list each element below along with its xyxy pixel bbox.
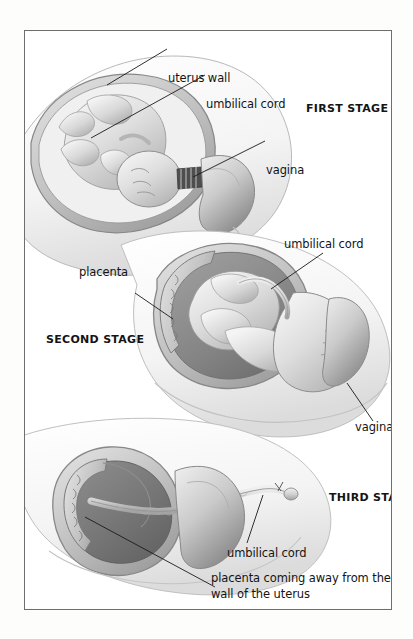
stage-three-illustration	[25, 418, 331, 595]
childbirth-illustration	[25, 31, 392, 610]
figure-frame: uterus wall umbilical cord vagina FIRST …	[24, 30, 392, 610]
stage-two-illustration	[121, 231, 390, 437]
scan-bleed-artifact	[60, 616, 310, 632]
stage-two-title: SECOND STAGE	[46, 332, 144, 348]
stage-three-title: THIRD STAGE	[329, 490, 392, 506]
stage-one-title: FIRST STAGE	[306, 101, 388, 117]
page-background: uterus wall umbilical cord vagina FIRST …	[0, 0, 413, 639]
label-placenta-detaching: placenta coming away from the wall of th…	[211, 571, 392, 602]
label-vagina-stage-two: vagina	[355, 420, 392, 436]
label-uterus-wall: uterus wall	[168, 71, 230, 87]
label-placenta-stage-two: placenta	[79, 265, 128, 281]
label-umbilical-cord-stage-two: umbilical cord	[284, 237, 363, 253]
label-umbilical-cord-stage-one: umbilical cord	[206, 97, 285, 113]
label-umbilical-cord-stage-three: umbilical cord	[227, 546, 306, 562]
umbilical-cord-clamp	[284, 488, 298, 500]
label-vagina-stage-one: vagina	[266, 163, 304, 179]
fetus-head	[117, 151, 181, 207]
